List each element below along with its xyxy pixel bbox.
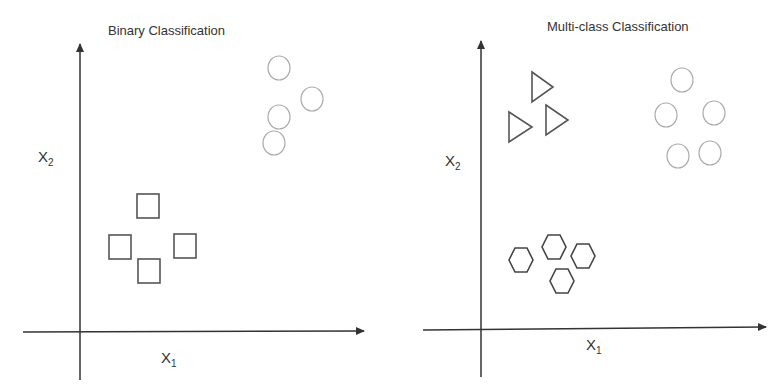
square-marker xyxy=(109,235,131,259)
circle-marker xyxy=(671,68,693,92)
right-x-axis xyxy=(423,327,766,330)
left-x-axis-label: X1 xyxy=(161,349,177,369)
right-chart-title: Multi-class Classification xyxy=(547,19,689,34)
hexagon-marker xyxy=(509,248,533,272)
circle-marker xyxy=(699,141,721,165)
triangle-class-points xyxy=(509,72,568,142)
circle-marker xyxy=(263,131,285,155)
square-marker xyxy=(174,234,196,258)
circle-marker xyxy=(268,56,290,80)
square-marker xyxy=(137,194,159,218)
triangle-marker xyxy=(532,72,553,102)
square-marker xyxy=(138,259,160,283)
circle-marker xyxy=(301,87,323,111)
circle-marker xyxy=(667,144,689,168)
hexagon-marker xyxy=(571,244,595,268)
right-y-axis-label: X2 xyxy=(445,152,461,172)
hexagon-class-points xyxy=(509,235,595,293)
left-y-axis-label: X2 xyxy=(38,148,54,168)
multiclass-classification-panel: Multi-class Classification X2 X1 xyxy=(423,19,766,377)
hexagon-marker xyxy=(542,235,566,259)
circle-marker xyxy=(268,105,290,129)
triangle-marker xyxy=(546,105,568,135)
triangle-marker xyxy=(509,112,532,142)
square-class-points xyxy=(109,194,196,283)
hexagon-marker xyxy=(550,269,574,293)
right-x-axis-label: X1 xyxy=(586,336,602,356)
classification-diagram: Binary Classification X2 X1 Multi-class … xyxy=(0,0,781,388)
left-x-axis xyxy=(23,331,364,332)
left-chart-title: Binary Classification xyxy=(108,23,225,38)
circle-marker xyxy=(703,101,725,125)
circle-marker xyxy=(655,103,677,127)
binary-classification-panel: Binary Classification X2 X1 xyxy=(23,23,364,380)
circle-class-points xyxy=(263,56,323,155)
circle-class-points xyxy=(655,68,725,168)
